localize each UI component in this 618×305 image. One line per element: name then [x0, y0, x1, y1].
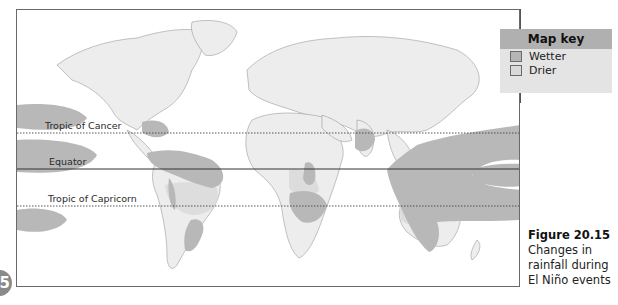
map-key: Map key Wetter Drier: [500, 29, 612, 93]
map-key-title: Map key: [500, 29, 612, 49]
key-item-label: Drier: [529, 64, 556, 77]
key-item-label: Wetter: [529, 50, 566, 63]
figure-caption-text: Changes in rainfall during El Niño event…: [528, 243, 618, 288]
figure-number: Figure 20.15: [528, 228, 618, 243]
tropic-of-cancer-label: Tropic of Cancer: [45, 120, 121, 131]
tropic-of-capricorn-label: Tropic of Capricorn: [48, 193, 137, 204]
key-item-drier: Drier: [510, 63, 612, 77]
drier-swatch-icon: [510, 65, 522, 76]
page-badge-icon: 5: [0, 270, 12, 296]
figure-caption: Figure 20.15 Changes in rainfall during …: [528, 228, 618, 288]
key-leader-line-bottom: [520, 93, 521, 103]
key-item-wetter: Wetter: [510, 49, 612, 63]
key-leader-line: [520, 9, 521, 29]
wetter-swatch-icon: [510, 51, 522, 62]
map-graphic: [17, 10, 520, 287]
equator-label: Equator: [49, 156, 86, 167]
world-map: Tropic of Cancer Equator Tropic of Capri…: [16, 9, 520, 287]
